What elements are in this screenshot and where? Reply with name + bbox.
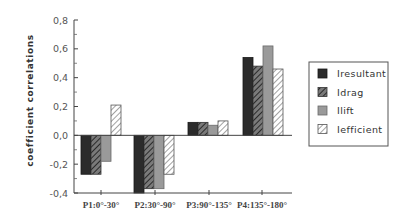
x-category-label: P2:30°-90° [134,200,176,210]
legend-label: Ilift [337,105,354,116]
bar-chart: coefficient correlations -0,4-0,20,00,20… [0,0,419,224]
bar-idrag [91,135,101,174]
bar-iefficient [273,69,283,135]
x-category-label: P3:90°-135° [186,200,232,210]
bar-ilift [263,46,273,135]
x-category-label: P1:0°-30° [83,200,120,210]
bar-iresultant [134,135,144,193]
legend-swatch [318,69,327,78]
y-axis: -0,4-0,20,00,20,40,60,8 [49,15,78,199]
y-tick-label: 0,0 [53,130,68,141]
legend-item: Idrag [318,87,364,98]
legend-label: Iefficient [337,124,382,135]
y-tick-label: 0,6 [53,43,68,54]
y-tick-label: 0,2 [53,101,68,112]
legend: IresultantIdragIliftIefficient [309,62,388,146]
legend-swatch [318,106,327,115]
legend-label: Idrag [337,87,364,98]
y-tick-label: 0,8 [53,15,68,26]
y-axis-label: coefficient correlations [25,34,35,166]
y-tick-label: 0,4 [53,72,68,83]
x-axis: P1:0°-30°P2:30°-90°P3:90°-135°P4:135°-18… [74,190,292,210]
bar-iefficient [164,135,174,174]
y-tick-label: -0,4 [49,188,68,199]
bars [74,46,292,193]
bar-group [81,105,121,174]
bar-group [243,46,283,135]
bar-idrag [253,66,263,135]
legend-label: Iresultant [337,68,386,79]
legend-swatch [318,88,327,97]
bar-iefficient [111,105,121,135]
y-tick-label: -0,2 [49,159,68,170]
bar-iresultant [188,122,198,135]
x-category-label: P4:135°-180° [237,200,288,210]
bar-ilift [154,135,164,188]
bar-iefficient [218,121,228,135]
legend-swatch [318,125,327,134]
bar-idrag [144,135,154,188]
bar-iresultant [243,57,253,135]
bar-group [134,135,174,193]
bar-ilift [208,125,218,135]
bar-iresultant [81,135,91,174]
y-axis-title: coefficient correlations [25,34,35,166]
bar-group [188,121,228,135]
bar-idrag [198,122,208,135]
bar-ilift [101,135,111,161]
